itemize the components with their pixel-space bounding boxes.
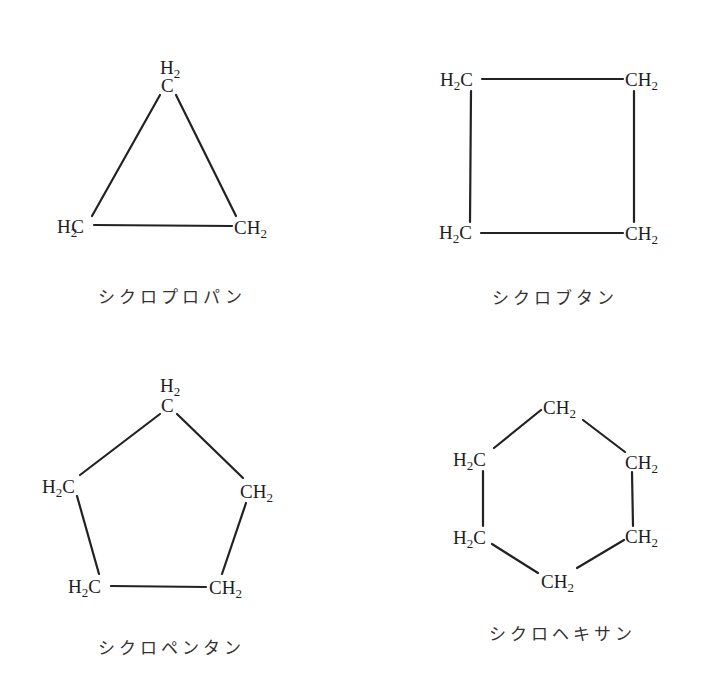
cyclohexane-top-ch2: CH2 — [543, 398, 576, 417]
cyclohexane-lower-left-h2c: H2C — [453, 528, 486, 547]
cyclopentane-bottom-right-ch2: CH2 — [209, 578, 242, 597]
cyclopentane-top-h2: H2 — [160, 376, 180, 395]
cyclopentane-left-h2c: H2C — [42, 477, 75, 496]
cyclopentane-top-c: C — [161, 396, 174, 415]
cyclopropane-bonds — [92, 95, 236, 226]
cyclohexane-lower-right-ch2: CH2 — [625, 527, 658, 546]
cyclobutane-top-right-ch2: CH2 — [625, 70, 658, 89]
cycloalkane-diagram: H2 C H2C CH2 シクロプロパン H2C CH2 H2C CH2 シクロ… — [0, 0, 713, 694]
cyclopentane-bonds — [77, 414, 246, 587]
cyclohexane-upper-right-ch2: CH2 — [625, 453, 658, 472]
cyclohexane-bottom-ch2: CH2 — [541, 572, 574, 591]
cyclopropane-left-h2c: H2C — [57, 217, 84, 236]
cyclobutane-name: シクロブタン — [492, 290, 618, 307]
cyclobutane-bonds — [470, 79, 634, 233]
cyclohexane-upper-left-h2c: H2C — [453, 450, 486, 469]
cyclopropane-top-c: C — [161, 76, 174, 95]
cyclopropane-right-ch2: CH2 — [234, 218, 267, 237]
cyclohexane-bonds — [483, 410, 633, 573]
cyclopropane-name: シクロプロパン — [98, 289, 246, 306]
cyclopentane-name: シクロペンタン — [98, 640, 245, 657]
cyclopentane-bottom-left-h2c: H2C — [68, 577, 101, 596]
cyclobutane-bottom-right-ch2: CH2 — [625, 224, 658, 243]
cyclopentane-right-ch2: CH2 — [240, 482, 273, 501]
cyclobutane-bottom-left-h2c: H2C — [439, 223, 472, 242]
bond-lines — [0, 0, 713, 694]
cyclohexane-name: シクロヘキサン — [489, 626, 636, 643]
cyclobutane-top-left-h2c: H2C — [440, 70, 473, 89]
